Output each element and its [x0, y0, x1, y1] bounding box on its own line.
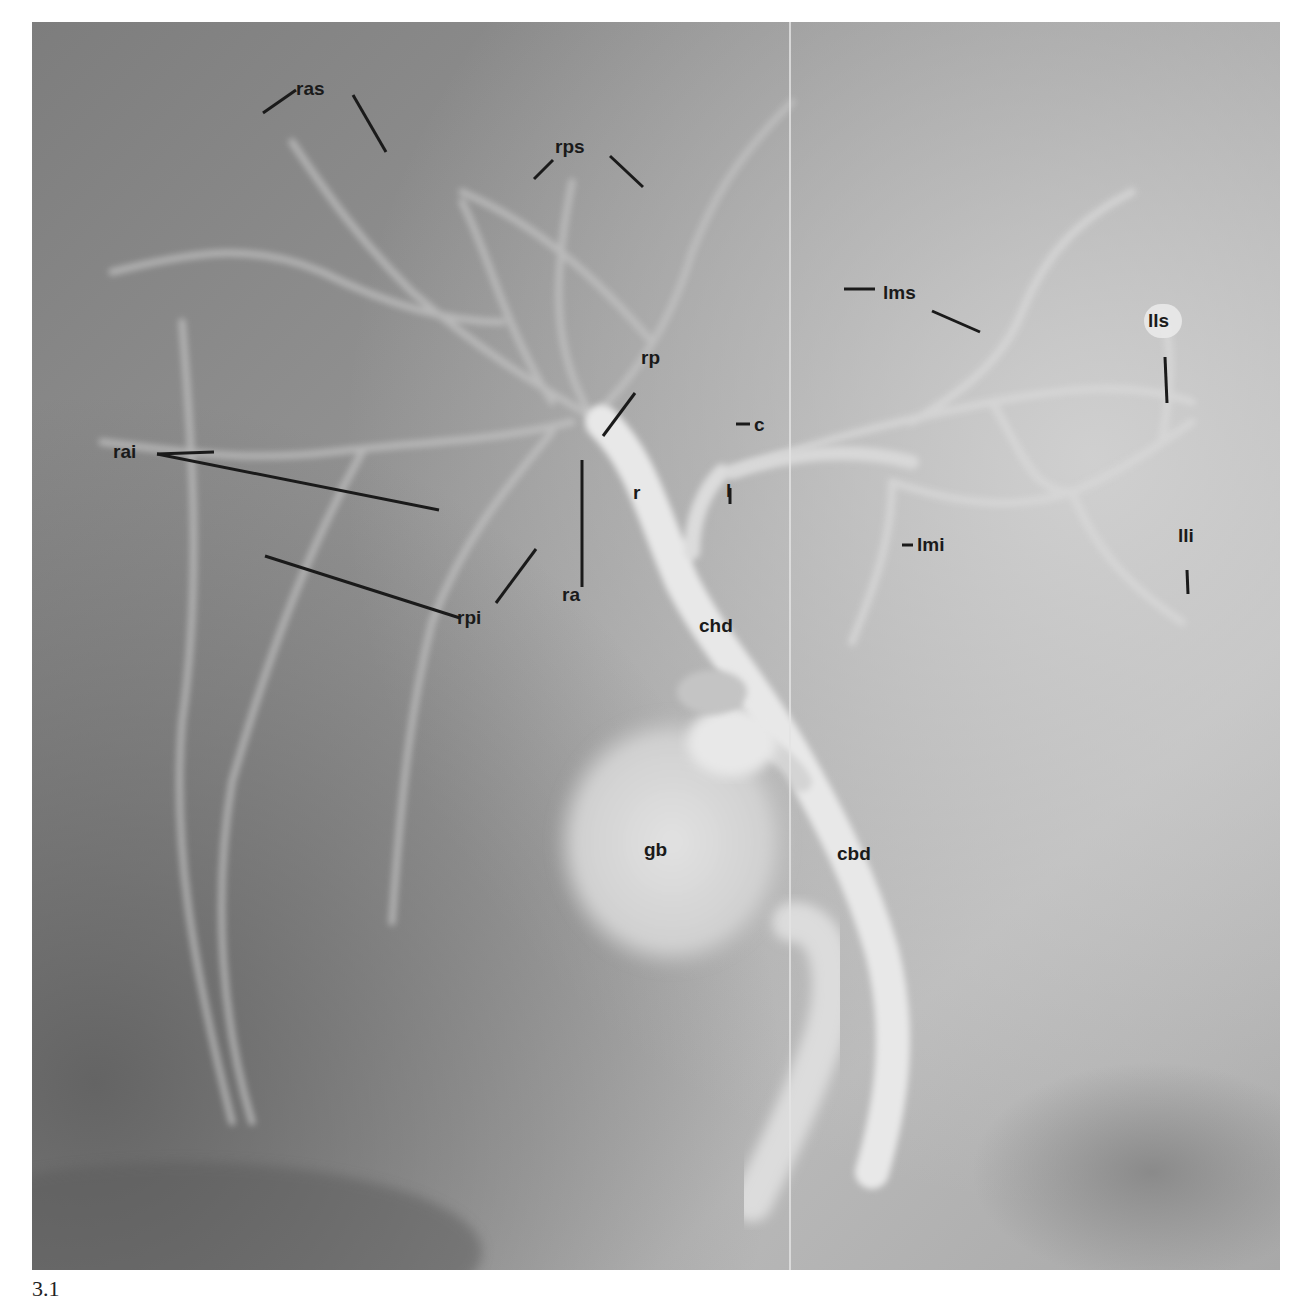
figure-number: 3.1 — [32, 1276, 60, 1302]
label-ra: ra — [562, 585, 580, 604]
label-rp: rp — [641, 348, 660, 367]
label-l: l — [726, 481, 731, 500]
label-ras: ras — [296, 79, 325, 98]
label-gb: gb — [644, 840, 667, 859]
cholangiogram-figure: ras rps lms lls rp c rai r l lmi lli ra … — [32, 22, 1280, 1270]
label-lmi: lmi — [917, 535, 944, 554]
label-lli: lli — [1178, 526, 1194, 545]
label-rps: rps — [555, 137, 585, 156]
label-rai: rai — [113, 442, 136, 461]
label-lms: lms — [883, 283, 916, 302]
label-lls: lls — [1148, 311, 1169, 330]
label-chd: chd — [699, 616, 733, 635]
radiograph-image — [32, 22, 1280, 1270]
label-rpi: rpi — [457, 608, 481, 627]
label-cbd: cbd — [837, 844, 871, 863]
label-c: c — [754, 415, 765, 434]
label-r: r — [633, 483, 640, 502]
page-header — [18, 0, 518, 6]
